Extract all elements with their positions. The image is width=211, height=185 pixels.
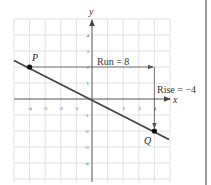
svg-text:-4: -4: [85, 161, 90, 166]
svg-text:-2: -2: [59, 106, 64, 111]
coordinate-plane: y x -4 -3 -2 -1 1 2 3 4 4 3 2 1 -1 -2 -3…: [0, 0, 211, 185]
point-q-label: Q: [144, 135, 152, 146]
point-p-label: P: [31, 52, 38, 63]
svg-text:3: 3: [138, 106, 141, 111]
svg-text:2: 2: [123, 106, 126, 111]
svg-text:-4: -4: [28, 106, 33, 111]
svg-text:-1: -1: [85, 113, 90, 118]
y-axis-label: y: [88, 6, 94, 17]
run-label: Run = 8: [97, 56, 129, 67]
right-border-divider: [205, 0, 207, 185]
svg-text:-1: -1: [74, 106, 79, 111]
svg-text:-3: -3: [85, 145, 90, 150]
x-axis-label: x: [172, 94, 178, 105]
point-p: [27, 64, 32, 69]
point-q: [152, 128, 157, 133]
svg-text:-2: -2: [85, 129, 90, 134]
rise-label: Rise = −4: [157, 84, 196, 95]
slope-diagram: y x -4 -3 -2 -1 1 2 3 4 4 3 2 1 -1 -2 -3…: [0, 0, 211, 185]
svg-text:-3: -3: [43, 106, 48, 111]
